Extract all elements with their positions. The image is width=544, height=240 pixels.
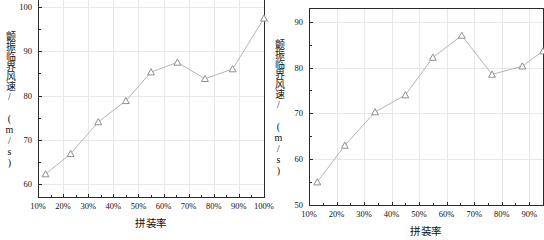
x-axis-tick bbox=[189, 194, 190, 197]
x-axis-tick-label: 60% bbox=[156, 202, 172, 211]
x-axis-tick-label: 10% bbox=[301, 210, 317, 219]
y-axis-minor-tick bbox=[310, 136, 312, 137]
gridline-horizontal bbox=[38, 184, 264, 185]
gridline-vertical bbox=[392, 8, 393, 205]
data-point-marker bbox=[95, 119, 102, 125]
gridline-vertical bbox=[337, 8, 338, 205]
data-point-marker bbox=[489, 71, 496, 77]
gridline-vertical bbox=[88, 0, 89, 197]
y-axis-minor-tick bbox=[39, 118, 41, 119]
y-axis-minor-tick bbox=[39, 73, 41, 74]
x-axis-tick bbox=[337, 202, 338, 205]
x-axis-tick-label: 40% bbox=[384, 210, 400, 219]
x-axis-tick-label: 30% bbox=[80, 202, 96, 211]
gridline-horizontal bbox=[309, 113, 543, 114]
x-axis-minor-tick bbox=[76, 195, 77, 197]
data-point-marker bbox=[458, 32, 465, 38]
x-axis-tick bbox=[88, 194, 89, 197]
x-axis-tick-label: 50% bbox=[131, 202, 147, 211]
y-axis-minor-tick bbox=[39, 29, 41, 30]
x-axis-tick bbox=[419, 202, 420, 205]
x-axis-minor-tick bbox=[378, 203, 379, 205]
chart-panel-left: 10%20%30%40%50%60%70%80%90%100%607080901… bbox=[0, 0, 269, 240]
gridline-vertical bbox=[474, 8, 475, 205]
x-axis-tick-label: 90% bbox=[231, 202, 247, 211]
gridline-horizontal bbox=[38, 7, 264, 8]
y-axis-minor-tick bbox=[310, 45, 312, 46]
x-axis-title: 拼装率 bbox=[410, 223, 442, 238]
gridline-horizontal bbox=[38, 96, 264, 97]
gridline-vertical bbox=[113, 0, 114, 197]
y-axis-tick bbox=[310, 22, 313, 23]
data-point-marker bbox=[42, 171, 49, 177]
gridline-vertical bbox=[63, 0, 64, 197]
x-axis-minor-tick bbox=[350, 203, 351, 205]
x-axis-tick bbox=[264, 194, 265, 197]
x-axis-tick bbox=[239, 194, 240, 197]
gridline-horizontal bbox=[38, 140, 264, 141]
gridline-horizontal bbox=[38, 51, 264, 52]
x-axis-tick-label: 20% bbox=[329, 210, 345, 219]
axis-line-bottom bbox=[309, 205, 544, 206]
x-axis-minor-tick bbox=[323, 203, 324, 205]
x-axis-tick bbox=[38, 194, 39, 197]
x-axis-minor-tick bbox=[126, 195, 127, 197]
y-axis-tick bbox=[39, 184, 42, 185]
y-axis-tick-label: 100 bbox=[0, 3, 32, 12]
x-axis-tick bbox=[63, 194, 64, 197]
y-axis-tick bbox=[310, 113, 313, 114]
y-axis-tick-label: 50 bbox=[269, 201, 303, 210]
y-axis-tick bbox=[39, 140, 42, 141]
gridline-horizontal bbox=[309, 68, 543, 69]
axis-line-left bbox=[309, 8, 310, 205]
x-axis-tick-label: 80% bbox=[494, 210, 510, 219]
x-axis-minor-tick bbox=[405, 203, 406, 205]
gridline-horizontal bbox=[309, 159, 543, 160]
y-axis-tick bbox=[310, 68, 313, 69]
data-point-marker bbox=[314, 179, 321, 185]
x-axis-title: 拼装率 bbox=[135, 215, 167, 230]
data-point-marker bbox=[148, 69, 155, 75]
x-axis-tick-label: 90% bbox=[521, 210, 537, 219]
data-point-marker bbox=[341, 142, 348, 148]
y-axis-tick bbox=[39, 7, 42, 8]
x-axis-minor-tick bbox=[488, 203, 489, 205]
x-axis-tick-label: 10% bbox=[30, 202, 46, 211]
data-point-marker bbox=[429, 54, 436, 60]
data-point-marker bbox=[402, 92, 409, 98]
gridline-vertical bbox=[214, 0, 215, 197]
x-axis-minor-tick bbox=[176, 195, 177, 197]
gridline-vertical bbox=[138, 0, 139, 197]
gridline-vertical bbox=[239, 0, 240, 197]
data-point-marker bbox=[202, 75, 209, 81]
y-axis-tick bbox=[39, 96, 42, 97]
data-point-marker bbox=[122, 97, 129, 103]
gridline-vertical bbox=[502, 8, 503, 205]
x-axis-minor-tick bbox=[226, 195, 227, 197]
x-axis-minor-tick bbox=[151, 195, 152, 197]
y-axis-tick bbox=[39, 51, 42, 52]
y-axis-title: 颤振临界风速/ (m/s) bbox=[2, 30, 17, 167]
y-axis-minor-tick bbox=[310, 182, 312, 183]
x-axis-tick-label: 30% bbox=[356, 210, 372, 219]
x-axis-tick bbox=[214, 194, 215, 197]
x-axis-minor-tick bbox=[433, 203, 434, 205]
x-axis-tick-label: 70% bbox=[181, 202, 197, 211]
y-axis-minor-tick bbox=[310, 90, 312, 91]
x-axis-tick bbox=[138, 194, 139, 197]
axis-line-bottom bbox=[38, 197, 265, 198]
x-axis-minor-tick bbox=[460, 203, 461, 205]
gridline-vertical bbox=[419, 8, 420, 205]
x-axis-tick-label: 40% bbox=[106, 202, 122, 211]
y-axis-tick-label: 90 bbox=[269, 17, 303, 26]
axis-line-top bbox=[309, 8, 544, 9]
x-axis-tick bbox=[164, 194, 165, 197]
y-axis-title: 颤振临界风速/ (m/s) bbox=[271, 38, 286, 175]
y-axis-tick bbox=[310, 159, 313, 160]
y-axis-minor-tick bbox=[39, 162, 41, 163]
data-point-marker bbox=[67, 150, 74, 156]
gridline-horizontal bbox=[309, 22, 543, 23]
x-axis-tick bbox=[529, 202, 530, 205]
x-axis-tick-label: 20% bbox=[55, 202, 71, 211]
x-axis-tick bbox=[474, 202, 475, 205]
